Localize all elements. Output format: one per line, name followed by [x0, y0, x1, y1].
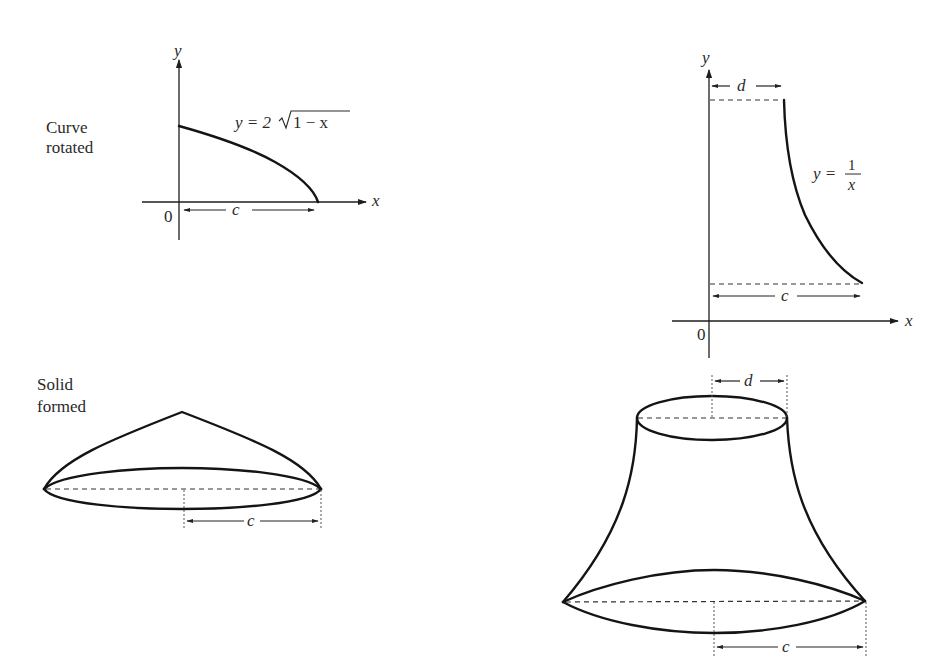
right-solid-bottom-ellipse-back [563, 570, 865, 602]
right-graph: y x 0 d y = 1 x c [672, 48, 913, 358]
right-x-axis-label: x [904, 311, 913, 330]
right-solid: d c [563, 371, 866, 658]
right-equation-numerator: 1 [848, 157, 856, 173]
left-equation-radicand: 1 − x [293, 113, 329, 132]
left-c-label: c [232, 200, 240, 219]
left-graph: y x 0 y = 2 1 − x c [142, 41, 380, 240]
left-y-axis-label: y [172, 41, 182, 60]
left-origin-label: 0 [164, 207, 173, 226]
right-origin-label: 0 [697, 325, 706, 344]
curve-rotated-label: Curve rotated [46, 118, 94, 157]
right-equation-lhs: y = [811, 164, 836, 183]
right-solid-right-side [787, 418, 865, 601]
solid-formed-line1: Solid [37, 375, 73, 394]
right-c-label: c [781, 286, 789, 305]
right-solid-c-label: c [782, 637, 790, 656]
right-equation: y = 1 x [811, 157, 861, 193]
curve-rotated-line1: Curve [46, 118, 88, 137]
left-solid-ellipse-front [44, 489, 321, 509]
right-solid-bottom-diameter [566, 601, 862, 602]
left-solid-c-label: c [247, 511, 255, 530]
solid-formed-line2: formed [37, 397, 87, 416]
left-solid: c [44, 412, 321, 530]
right-solid-d-label: d [744, 371, 753, 390]
solids-of-revolution-figure: Curve rotated Solid formed y x 0 y = 2 1… [0, 0, 937, 670]
left-x-axis-label: x [371, 191, 380, 210]
right-equation-denominator: x [847, 176, 855, 193]
left-equation-prefix: y = 2 [233, 113, 272, 132]
left-curve [179, 126, 318, 202]
solid-formed-label: Solid formed [37, 375, 87, 416]
right-d-label: d [737, 76, 746, 95]
svg-text:y = 2: y = 2 [233, 113, 272, 132]
curve-rotated-line2: rotated [46, 138, 94, 157]
left-equation: y = 2 1 − x [233, 111, 350, 132]
right-solid-left-side [563, 418, 637, 602]
left-solid-dome [44, 412, 321, 489]
right-solid-bottom-ellipse-front [563, 601, 865, 633]
right-y-axis-label: y [700, 48, 710, 67]
left-solid-ellipse-back [44, 468, 321, 489]
